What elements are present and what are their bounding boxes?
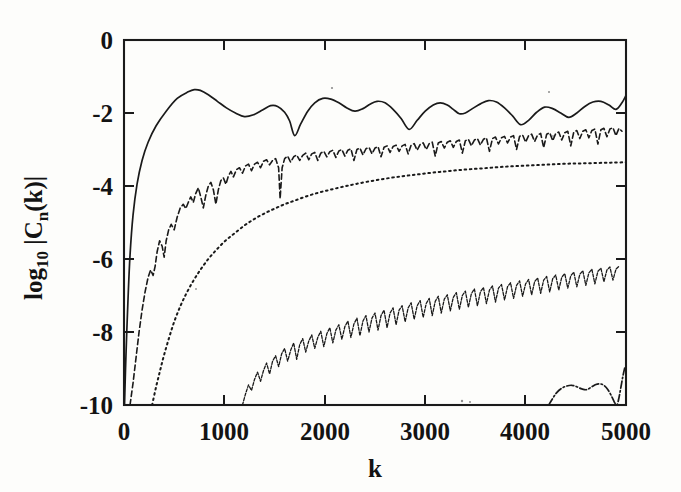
plot-frame	[124, 40, 626, 405]
series-line-n5	[549, 367, 625, 406]
series-line-n3	[152, 162, 626, 405]
x-axis-title: k	[368, 455, 382, 482]
series-line-n2	[130, 128, 622, 405]
x-tick-label-5: 5000	[601, 418, 651, 445]
data-area	[125, 90, 627, 406]
x-tick-label-1: 1000	[199, 418, 249, 445]
x-tick-label-0: 0	[118, 418, 131, 445]
ylabel-log-subscript: 10	[33, 251, 52, 268]
y-tick-labels: 0 -2 -4 -6 -8 -10	[80, 27, 114, 419]
y-tick-label-1: -2	[92, 100, 113, 127]
ylabel-bar-open: |C	[20, 221, 47, 245]
chart-plot: log10 |Cn(k)| 0 -2 -4 -6 -8 -10 0 1000 2…	[0, 0, 681, 492]
x-tick-labels: 0 1000 2000 3000 4000 5000	[118, 418, 651, 445]
axis-ticks	[124, 40, 626, 405]
y-tick-label-3: -6	[92, 246, 113, 273]
y-tick-label-0: 0	[101, 27, 114, 54]
figure-canvas: log10 |Cn(k)| 0 -2 -4 -6 -8 -10 0 1000 2…	[0, 0, 681, 492]
y-axis-title: log10 |Cn(k)|	[20, 176, 52, 300]
ylabel-arg: (k)	[20, 181, 48, 212]
y-tick-label-5: -10	[80, 392, 113, 419]
scan-noise	[195, 87, 554, 403]
x-tick-label-2: 2000	[300, 418, 350, 445]
x-tick-label-3: 3000	[400, 418, 450, 445]
series-line-n4	[242, 266, 618, 405]
ylabel-bar-close: |	[20, 176, 47, 182]
ylabel-log: log	[20, 268, 47, 300]
y-tick-label-4: -8	[92, 319, 113, 346]
y-tick-label-2: -4	[92, 173, 113, 200]
x-tick-label-4: 4000	[500, 418, 550, 445]
svg-text:log10 |Cn(k)|: log10 |Cn(k)|	[20, 176, 52, 300]
